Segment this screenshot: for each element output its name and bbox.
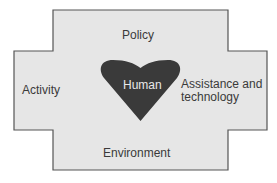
label-assistance-2: technology xyxy=(181,91,239,104)
label-policy: Policy xyxy=(122,29,154,42)
label-human: Human xyxy=(123,79,162,92)
label-activity: Activity xyxy=(22,84,60,97)
label-environment: Environment xyxy=(103,147,170,160)
